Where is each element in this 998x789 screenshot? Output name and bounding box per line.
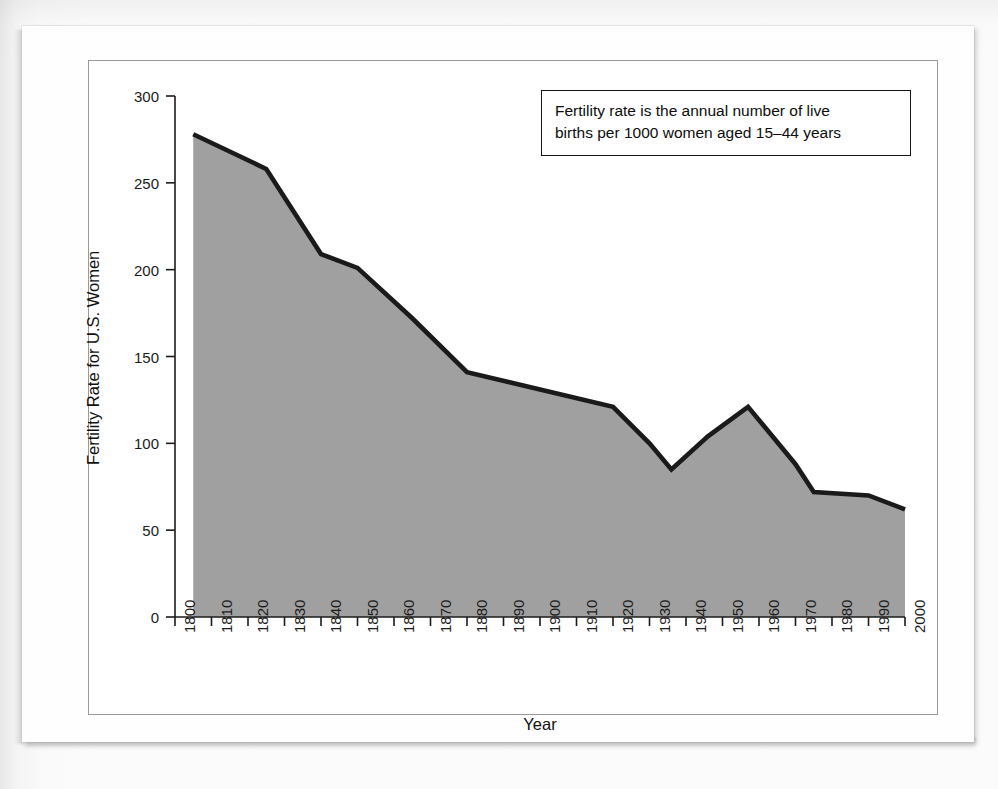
x-axis-tick-label: 1990 (875, 600, 892, 633)
x-axis-tick-label: 1870 (437, 600, 454, 633)
annotation-line-1: Fertility rate is the annual number of l… (555, 100, 897, 122)
annotation-callout: Fertility rate is the annual number of l… (541, 90, 911, 156)
x-axis-tick-label: 1800 (181, 600, 198, 633)
x-axis-tick-label: 1830 (291, 600, 308, 633)
y-axis-title: Fertility Rate for U.S. Women (84, 250, 103, 464)
y-axis-tick-label: 200 (101, 261, 159, 278)
x-axis-tick-label: 1930 (656, 600, 673, 633)
x-axis-tick-label: 1820 (254, 600, 271, 633)
y-axis-tick-label: 250 (101, 174, 159, 191)
x-axis-tick-label: 1980 (838, 600, 855, 633)
x-axis-tick-label: 1900 (546, 600, 563, 633)
y-axis-tick-label: 100 (101, 435, 159, 452)
x-axis-tick-label: 1960 (765, 600, 782, 633)
x-axis-tick-label: 1890 (510, 600, 527, 633)
y-axis-tick-label: 0 (101, 609, 159, 626)
y-axis-tick-label: 150 (101, 348, 159, 365)
x-axis-tick-label: 1880 (473, 600, 490, 633)
x-axis-tick-label: 1850 (364, 600, 381, 633)
y-axis-tick-label: 50 (101, 522, 159, 539)
annotation-line-2: births per 1000 women aged 15–44 years (555, 122, 897, 144)
x-axis-tick-label: 1860 (400, 600, 417, 633)
x-axis-title: Year (440, 715, 640, 734)
x-axis-tick-label: 1920 (619, 600, 636, 633)
x-axis-tick-label: 1940 (692, 600, 709, 633)
y-axis-tick-label: 300 (101, 88, 159, 105)
x-axis-tick-label: 1840 (327, 600, 344, 633)
x-axis-tick-label: 1950 (729, 600, 746, 633)
x-axis-tick-label: 1810 (218, 600, 235, 633)
x-axis-tick-label: 1910 (583, 600, 600, 633)
x-axis-tick-label: 1970 (802, 600, 819, 633)
x-axis-tick-label: 2000 (911, 600, 928, 633)
